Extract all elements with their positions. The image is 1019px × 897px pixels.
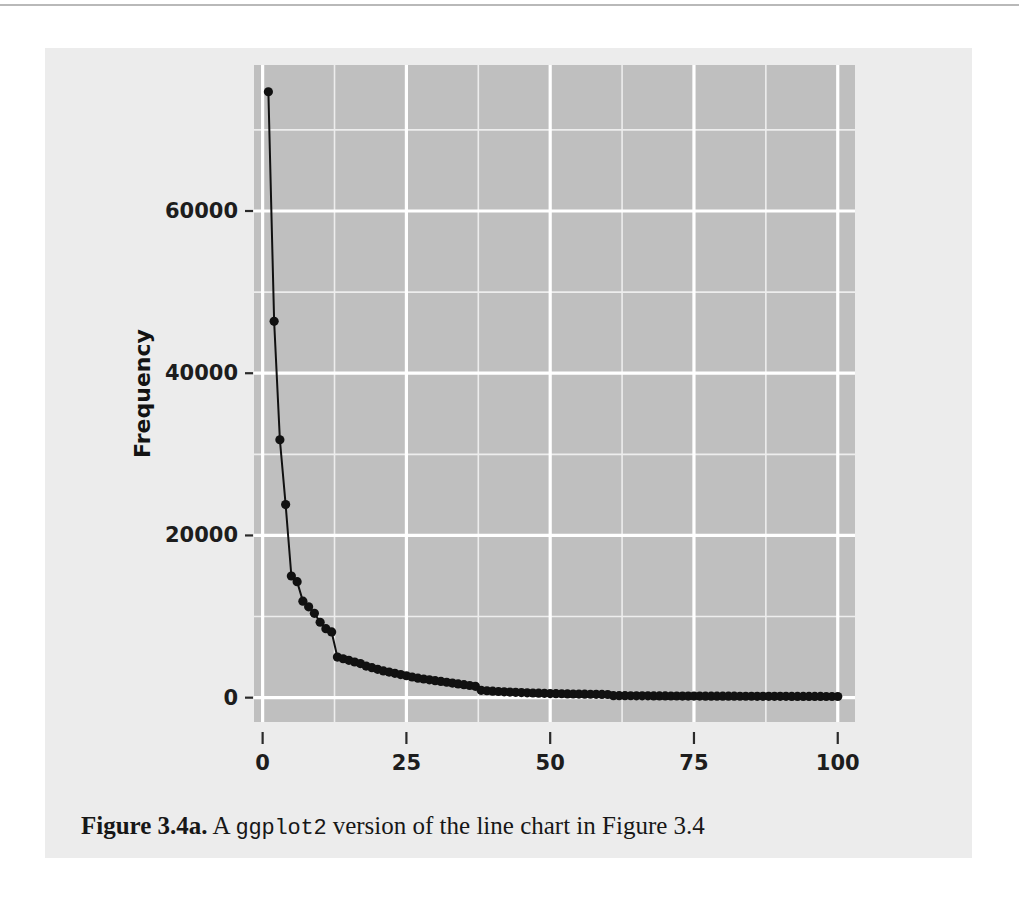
series-point <box>270 317 279 326</box>
figure-caption-label: Figure 3.4a. <box>81 812 208 839</box>
figure-caption: Figure 3.4a. A ggplot2 version of the li… <box>81 810 951 843</box>
x-axis-tick-label: 50 <box>536 751 565 775</box>
series-point <box>275 435 284 444</box>
figure-caption-after: version of the line chart in Figure 3.4 <box>333 812 705 839</box>
chart-panel-background <box>254 65 855 722</box>
figure-block: 02000040000600000255075100IndexFrequency… <box>45 48 972 858</box>
series-point <box>264 87 273 96</box>
series-point <box>833 692 842 701</box>
y-axis-tick-label: 0 <box>223 686 238 710</box>
figure-caption-before: A <box>213 812 230 839</box>
series-point <box>310 609 319 618</box>
frequency-line-chart: 02000040000600000255075100IndexFrequency <box>45 48 972 788</box>
series-point <box>281 500 290 509</box>
series-point <box>327 627 336 636</box>
x-axis-tick-label: 25 <box>392 751 421 775</box>
y-axis-tick-label: 40000 <box>165 361 238 385</box>
page-top-rule <box>0 4 1019 6</box>
series-point <box>293 577 302 586</box>
x-axis-tick-label: 0 <box>255 751 270 775</box>
y-axis-title: Frequency <box>130 329 155 458</box>
x-axis-tick-label: 75 <box>679 751 708 775</box>
y-axis-tick-label: 20000 <box>165 523 238 547</box>
figure-caption-code: ggplot2 <box>235 816 326 841</box>
y-axis-tick-label: 60000 <box>165 199 238 223</box>
chart-plot-area: 02000040000600000255075100IndexFrequency <box>45 48 972 788</box>
x-axis-title: Index <box>520 787 589 788</box>
x-axis-tick-label: 100 <box>816 751 860 775</box>
